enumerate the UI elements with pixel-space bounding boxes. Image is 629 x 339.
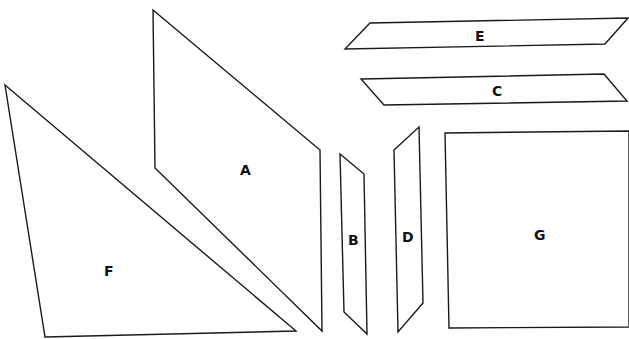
label-d: D bbox=[402, 229, 414, 245]
label-f: F bbox=[104, 263, 114, 279]
shape-b: B bbox=[340, 154, 367, 334]
label-b: B bbox=[348, 232, 359, 248]
label-a: A bbox=[240, 162, 251, 178]
shapes-diagram: A B C D E F G bbox=[0, 0, 629, 339]
shape-c: C bbox=[361, 74, 627, 105]
label-c: C bbox=[492, 83, 502, 99]
label-g: G bbox=[534, 227, 546, 243]
shape-e: E bbox=[345, 18, 628, 49]
label-e: E bbox=[475, 28, 485, 44]
parallelogram-e bbox=[345, 18, 628, 49]
shape-g: G bbox=[445, 131, 629, 328]
shape-d: D bbox=[394, 127, 423, 332]
